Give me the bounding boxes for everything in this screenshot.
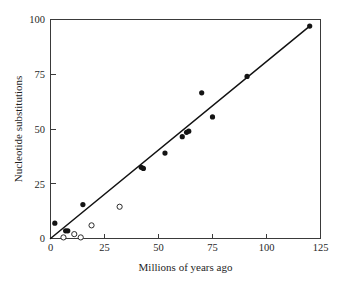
data-point <box>72 232 77 237</box>
x-tick-label-75: 75 <box>207 242 218 253</box>
data-point <box>199 90 204 95</box>
data-point <box>180 134 185 139</box>
data-point <box>162 150 167 155</box>
x-tick-label-125: 125 <box>313 242 329 253</box>
x-tick-label-25: 25 <box>99 242 110 253</box>
y-tick-label-0: 0 <box>40 233 45 244</box>
scatter-plot: 0 25 50 75 100 0 25 50 75 100 125 Millio… <box>0 0 344 282</box>
y-axis-ticks <box>51 20 56 239</box>
y-tick-label-100: 100 <box>29 14 45 25</box>
data-point <box>65 228 70 233</box>
regression-line <box>51 26 310 238</box>
y-tick-label-25: 25 <box>35 179 46 190</box>
data-point <box>307 23 312 28</box>
data-point <box>78 235 83 240</box>
y-tick-label-75: 75 <box>35 69 46 80</box>
data-point <box>244 74 249 79</box>
y-axis-title: Nucleotide substitutions <box>12 76 24 183</box>
x-axis-title: Millions of years ago <box>139 261 233 273</box>
data-point <box>61 235 66 240</box>
x-tick-label-0: 0 <box>48 242 53 253</box>
x-tick-label-100: 100 <box>259 242 275 253</box>
data-point <box>141 166 146 171</box>
data-point <box>210 114 215 119</box>
figure-container: 0 25 50 75 100 0 25 50 75 100 125 Millio… <box>0 0 344 282</box>
x-axis-tick-labels: 0 25 50 75 100 125 <box>48 242 329 253</box>
x-axis-ticks <box>51 234 321 239</box>
data-point <box>186 129 191 134</box>
x-tick-label-50: 50 <box>153 242 164 253</box>
y-tick-label-50: 50 <box>35 124 46 135</box>
data-point <box>52 221 57 226</box>
data-point <box>117 204 122 209</box>
data-point <box>80 202 85 207</box>
y-axis-tick-labels: 0 25 50 75 100 <box>29 14 45 244</box>
data-point <box>89 223 94 228</box>
